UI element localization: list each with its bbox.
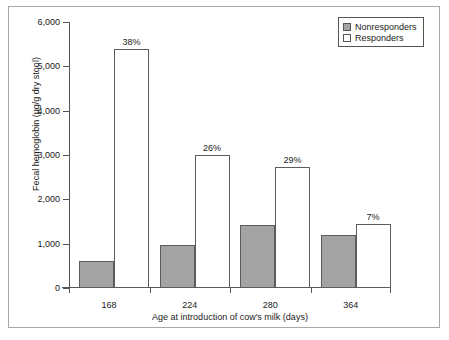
- x-axis-label: Age at introduction of cow's milk (days): [69, 312, 391, 322]
- legend-label: Responders: [355, 33, 404, 43]
- bar-responders-280[interactable]: 29%: [275, 167, 310, 288]
- y-tick-mark: [63, 111, 69, 112]
- y-tick-mark: [63, 199, 69, 200]
- bar-value-label: 7%: [366, 213, 379, 222]
- legend-item-responders[interactable]: Responders: [343, 32, 417, 43]
- bar-responders-168[interactable]: 38%: [114, 49, 149, 288]
- x-tick-label-364: 364: [343, 301, 358, 310]
- figure: 0 1,000 2,000 3,000 4,000 5,000 6,000: [0, 0, 449, 340]
- y-tick-label: 0: [55, 284, 60, 293]
- bar-responders-364[interactable]: 7%: [356, 224, 391, 288]
- x-tick-mark: [390, 288, 391, 293]
- legend-label: Nonresponders: [355, 22, 417, 32]
- x-tick-mark: [230, 288, 231, 293]
- legend: Nonresponders Responders: [338, 17, 424, 47]
- x-tick-label-224: 224: [182, 301, 197, 310]
- legend-swatch-icon: [343, 23, 351, 31]
- x-tick-label-168: 168: [101, 301, 116, 310]
- y-tick-mark: [63, 155, 69, 156]
- bar-nonresponders-224[interactable]: [160, 245, 195, 288]
- x-tick-mark: [311, 288, 312, 293]
- y-tick-label: 1,000: [37, 239, 60, 248]
- bar-value-label: 38%: [122, 38, 140, 47]
- bar-nonresponders-364[interactable]: [321, 235, 356, 288]
- plot-area: 0 1,000 2,000 3,000 4,000 5,000 6,000: [69, 22, 391, 288]
- bar-value-label: 29%: [283, 156, 301, 165]
- bar-value-label: 26%: [203, 144, 221, 153]
- x-tick-label-280: 280: [263, 301, 278, 310]
- y-tick-mark: [63, 244, 69, 245]
- legend-item-nonresponders[interactable]: Nonresponders: [343, 21, 417, 32]
- bar-responders-224[interactable]: 26%: [195, 155, 230, 288]
- y-tick-mark: [63, 66, 69, 67]
- x-tick-mark: [69, 288, 70, 293]
- legend-swatch-icon: [343, 34, 351, 42]
- y-axis-label: Fecal hemoglobin (µg/g dry stool): [31, 9, 41, 239]
- y-tick-mark: [63, 22, 69, 23]
- x-tick-mark: [150, 288, 151, 293]
- bar-nonresponders-280[interactable]: [240, 225, 275, 288]
- bar-nonresponders-168[interactable]: [79, 261, 114, 289]
- y-axis-line: [69, 22, 70, 288]
